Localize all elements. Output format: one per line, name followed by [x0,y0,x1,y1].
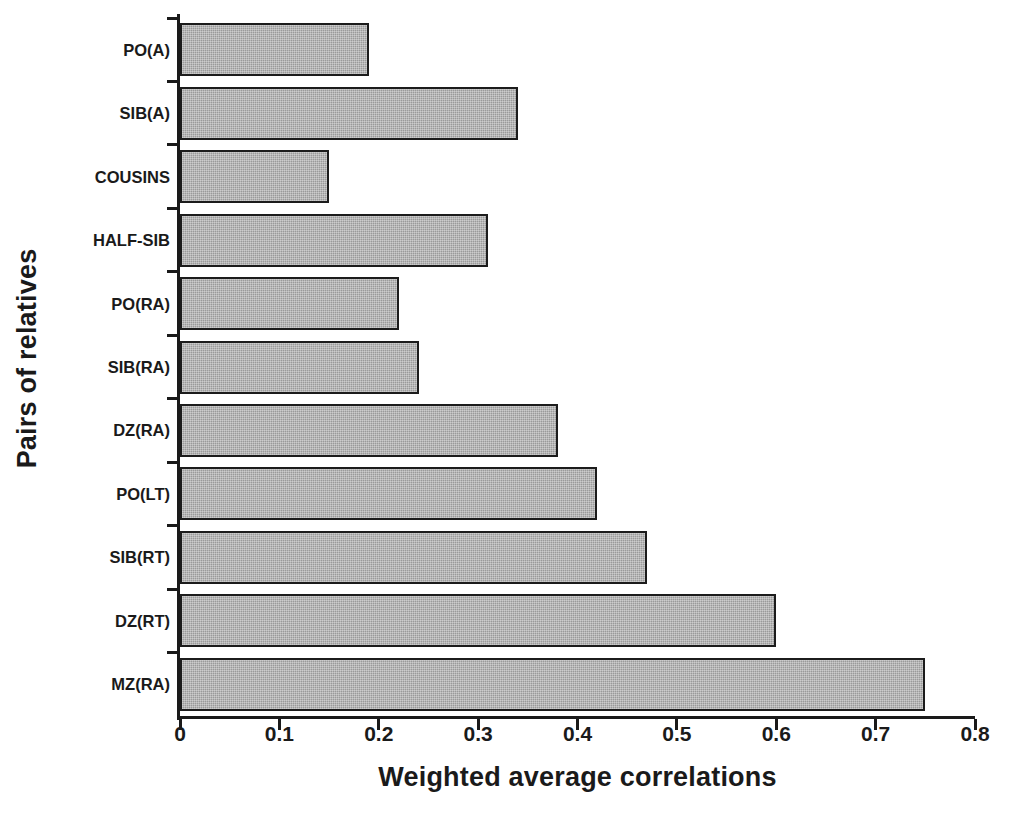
category-label: SIB(RA) [108,358,170,376]
category-label: COUSINS [95,168,170,186]
x-axis-tick-label: 0.1 [265,722,294,746]
category-label: DZ(RA) [113,421,170,439]
x-axis-tick-label: 0.4 [563,722,592,746]
category-label: DZ(RT) [115,612,170,630]
bar [180,404,558,457]
x-axis-tick-label: 0.2 [364,722,393,746]
y-axis-tick [167,524,177,527]
bar [180,150,329,203]
y-axis-tick [167,80,177,83]
category-label: SIB(RT) [110,548,171,566]
x-axis-title: Weighted average correlations [180,762,975,793]
y-axis-title: Pairs of relatives [0,0,56,716]
category-label-column: PO(A)SIB(A)COUSINSHALF-SIBPO(RA)SIB(RA)D… [56,18,180,716]
bar [180,23,369,76]
bar [180,467,597,520]
bar [180,341,419,394]
x-axis-tick-label: 0.7 [861,722,890,746]
y-axis-tick [167,588,177,591]
x-axis-tick-label: 0.3 [464,722,493,746]
x-axis-tick-label: 0.6 [762,722,791,746]
bar-chart: Pairs of relatives PO(A)SIB(A)COUSINSHAL… [0,0,1016,826]
bar [180,531,647,584]
x-axis-tick-label: 0 [174,722,186,746]
y-axis-tick [167,651,177,654]
category-label: PO(RA) [111,295,170,313]
bar [180,277,399,330]
x-axis-tick-labels: 00.10.20.30.40.50.60.70.8 [180,722,975,752]
x-axis-tick-label: 0.5 [662,722,691,746]
category-label: SIB(A) [120,104,170,122]
bar [180,658,925,711]
category-label: HALF-SIB [93,231,170,249]
bar [180,594,776,647]
category-label: PO(LT) [116,485,170,503]
y-axis-tick [167,17,177,20]
y-axis-tick [167,270,177,273]
category-label: MZ(RA) [111,675,170,693]
y-axis-tick [167,207,177,210]
plot-area [180,18,975,716]
y-axis-tick [167,143,177,146]
y-axis-title-text: Pairs of relatives [13,248,44,468]
x-axis-tick-label: 0.8 [960,722,989,746]
bar [180,214,488,267]
bar [180,87,518,140]
category-label: PO(A) [123,41,170,59]
y-axis-tick [167,334,177,337]
y-axis-tick [167,461,177,464]
y-axis-tick [167,397,177,400]
